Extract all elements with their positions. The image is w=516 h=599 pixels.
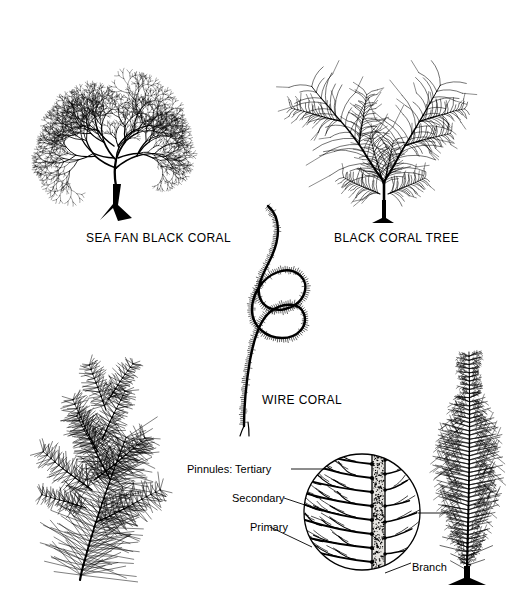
sea-fan-holdfast	[100, 184, 132, 221]
leader-branch	[385, 563, 411, 573]
illustration-canvas: SEA FAN BLACK CORAL BLACK CORAL TREE WIR…	[0, 0, 516, 599]
sea-fan-black-coral-illustration	[10, 8, 230, 223]
leader-secondary	[284, 498, 320, 510]
black-coral-tree-caption: BLACK CORAL TREE	[334, 231, 459, 245]
detail-label-primary: Primary	[250, 521, 288, 533]
detail-label-secondary: Secondary	[232, 492, 285, 504]
detail-label-tertiary: Pinnules: Tertiary	[187, 463, 271, 475]
wire-coral-caption: WIRE CORAL	[262, 393, 342, 407]
bottlebrush-coral-svg	[22, 330, 192, 585]
detail-leader-lines	[180, 455, 516, 590]
detail-label-branch: Branch	[412, 561, 447, 573]
black-coral-tree-holdfast	[372, 200, 394, 223]
black-coral-tree-svg	[272, 14, 504, 224]
sea-fan-black-coral-caption: SEA FAN BLACK CORAL	[86, 231, 231, 245]
sea-fan-svg	[10, 8, 230, 223]
bottlebrush-coral-illustration	[22, 330, 192, 585]
black-coral-tree-illustration	[272, 14, 504, 224]
